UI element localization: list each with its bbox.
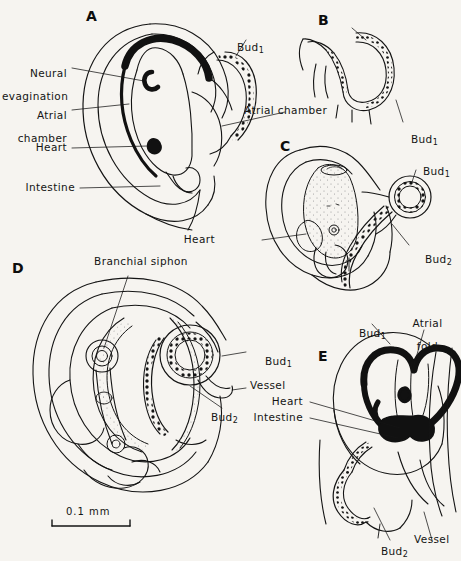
label-vessel-d: Vessel [250,380,286,392]
label-bud1-a: Bud1 [222,30,264,68]
bud-subscript-2: 2 [447,258,452,267]
scale-bar-label: 0.1 mm [66,506,111,517]
label-intestine-a: Intestine [0,182,75,194]
label-intestine-e: Intestine [223,412,303,424]
label-branchial-siphon: Branchial siphon [76,256,206,268]
panel-c-artwork [266,146,431,290]
label-atrial-chamber-full: Atrial chamber [244,105,327,117]
label-heart-e: Heart [233,396,303,408]
label-bud1-e: Bud1 [344,316,386,354]
bud-subscript-1: 1 [259,46,264,55]
panel-letter-b: B [318,12,329,28]
label-vessel-e: Vessel [414,534,450,546]
panel-letter-e: E [318,348,328,364]
panel-letter-a: A [86,8,97,24]
panel-letter-c: C [280,138,290,154]
panel-letter-d: D [12,260,24,276]
label-bud2-e: Bud2 [366,534,408,561]
label-bud1-c: Bud1 [408,154,450,192]
panel-d-artwork [33,278,233,492]
label-bud2-c: Bud2 [410,242,452,280]
label-atrial-fold: Atrial fold [392,306,448,364]
scale-bar [52,520,130,526]
label-heart-c: Heart [145,234,215,246]
label-bud1-d: Bud1 [250,344,292,382]
label-heart-a: Heart [0,142,67,154]
